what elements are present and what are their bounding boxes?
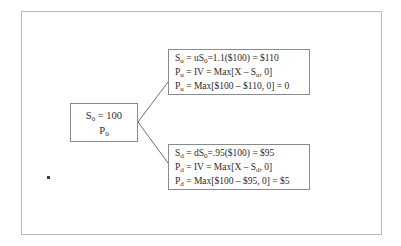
down-s-expr-b: =.95($100) = $95: [207, 148, 274, 158]
up-state-node: Su = uS0=1.1($100) = $110 Pu = IV = Max[…: [168, 49, 310, 95]
root-node-line-1: S0 = 100: [86, 108, 122, 123]
down-p-expr-a: = IV = Max[X – S: [184, 162, 256, 172]
diagram-canvas: S0 = 100 P0 Su = uS0=1.1($100) = $110 Pu…: [0, 0, 401, 246]
up-s-expr-b: =1.1($100) = $110: [207, 53, 278, 63]
root-node-line-2: P0: [99, 123, 108, 138]
down-node-line-1: Sd = dS0=.95($100) = $95: [175, 146, 304, 160]
root-p-subscript: 0: [105, 129, 109, 137]
root-node: S0 = 100 P0: [70, 103, 138, 142]
up-s-expr-a: = uS: [184, 53, 204, 63]
up-p-expr-a: = IV = Max[X – S: [184, 67, 256, 77]
up-node-line-1: Su = uS0=1.1($100) = $110: [175, 51, 304, 65]
stray-dot-mark: [47, 176, 50, 179]
down-node-line-3: Pd = Max[$100 – $95, 0] = $5: [175, 174, 304, 188]
down-state-node: Sd = dS0=.95($100) = $95 Pd = IV = Max[X…: [168, 144, 310, 190]
down-s-expr-a: = dS: [184, 148, 204, 158]
down-p-expr-b: , 0]: [260, 162, 273, 172]
down-p2-expr: = Max[$100 – $95, 0] = $5: [184, 176, 290, 186]
up-node-line-3: Pu = Max[$100 – $110, 0] = 0: [175, 79, 304, 93]
up-node-line-2: Pu = IV = Max[X – Su, 0]: [175, 65, 304, 79]
down-node-line-2: Pd = IV = Max[X – Sd, 0]: [175, 160, 304, 174]
up-p2-expr: = Max[$100 – $110, 0] = 0: [184, 81, 289, 91]
root-s-value: = 100: [95, 110, 122, 121]
up-p-expr-b: , 0]: [260, 67, 273, 77]
